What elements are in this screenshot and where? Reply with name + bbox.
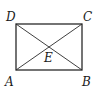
label-c: C <box>83 10 92 24</box>
label-d: D <box>5 10 16 24</box>
rectangle-diagram: D C A B E <box>0 0 98 92</box>
label-a: A <box>4 75 14 89</box>
label-e: E <box>43 51 53 65</box>
label-b: B <box>81 75 91 89</box>
